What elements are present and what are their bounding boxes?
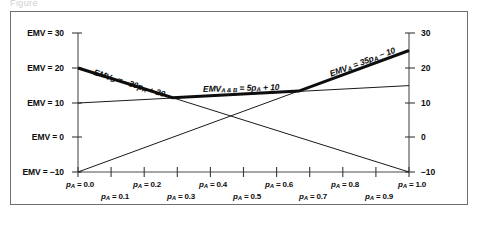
x-label-0-5: pA = 0.5 bbox=[233, 192, 261, 201]
x-label-0-0: pA = 0.0 bbox=[66, 180, 94, 189]
x-label-0-2: pA = 0.2 bbox=[133, 180, 161, 189]
y-label-left-30: EMV = 30 bbox=[14, 28, 64, 38]
x-label-0-6: pA = 0.6 bbox=[265, 180, 293, 189]
y-label-left-0: EMV = 0 bbox=[14, 132, 64, 142]
x-label-1-0: pA = 1.0 bbox=[398, 180, 426, 189]
y-label-right-10: 10 bbox=[421, 98, 430, 108]
y-ticks-right bbox=[405, 33, 415, 172]
y-label-left-m10: EMV = −10 bbox=[14, 167, 64, 177]
x-label-0-3: pA = 0.3 bbox=[167, 192, 195, 201]
x-label-0-8: pA = 0.8 bbox=[331, 180, 359, 189]
x-label-0-7: pA = 0.7 bbox=[299, 192, 327, 201]
y-label-right-m10: −10 bbox=[421, 167, 435, 177]
x-label-0-1: pA = 0.1 bbox=[101, 192, 129, 201]
y-label-left-10: EMV = 10 bbox=[14, 98, 64, 108]
y-label-right-20: 20 bbox=[421, 63, 430, 73]
y-label-right-30: 30 bbox=[421, 28, 430, 38]
x-label-0-4: pA = 0.4 bbox=[199, 180, 227, 189]
emv-ab-equation-label: EMVA & B = 5pA + 10 bbox=[203, 82, 280, 94]
y-label-left-20: EMV = 20 bbox=[14, 63, 64, 73]
x-label-0-9: pA = 0.9 bbox=[365, 192, 393, 201]
y-label-right-0: 0 bbox=[421, 132, 426, 142]
